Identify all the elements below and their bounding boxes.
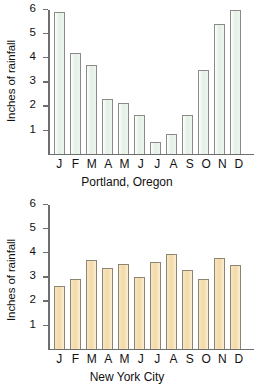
y-tick-5: 5	[43, 228, 48, 229]
bar-series-nyc	[51, 205, 244, 349]
x-tick-label-9: O	[198, 352, 214, 366]
bar-M-4	[118, 264, 129, 349]
y-tick-label-3: 3	[30, 75, 36, 87]
bar-D-11	[230, 265, 241, 349]
x-tick-label-0: J	[51, 157, 67, 171]
chart-panel-portland: Inches of rainfall 1 2 3 4 5 6	[0, 0, 254, 192]
y-tick-4: 4	[43, 252, 48, 253]
bar-F-1	[70, 53, 81, 153]
x-tick-label-7: A	[165, 352, 181, 366]
chart-caption-nyc: New York City	[0, 370, 254, 384]
y-tick-label-6: 6	[30, 198, 36, 210]
x-tick-label-1: F	[67, 352, 83, 366]
x-tick-label-4: M	[116, 157, 132, 171]
x-tick-label-7: A	[165, 157, 181, 171]
bar-series-portland	[51, 10, 244, 154]
y-tick-label-6: 6	[30, 3, 36, 15]
bar-N-10	[214, 258, 225, 349]
bar-F-1	[70, 279, 81, 348]
bar-slot	[99, 10, 115, 154]
y-axis-line	[48, 10, 50, 155]
bar-A-3	[102, 99, 113, 154]
y-tick-6: 6	[43, 204, 48, 205]
bar-slot	[180, 205, 196, 349]
bar-M-2	[86, 65, 97, 153]
y-tick-label-1: 1	[30, 124, 36, 136]
bar-S-8	[182, 270, 193, 349]
x-tick-label-1: F	[67, 157, 83, 171]
bar-J-6	[150, 142, 161, 154]
bar-J-5	[134, 115, 145, 153]
bar-J-0	[54, 286, 65, 348]
y-tick-label-2: 2	[30, 100, 36, 112]
bar-slot	[115, 10, 131, 154]
bar-slot	[115, 205, 131, 349]
bar-M-4	[118, 103, 129, 153]
x-tick-label-2: M	[84, 352, 100, 366]
x-tick-label-3: A	[100, 352, 116, 366]
y-tick-label-4: 4	[30, 51, 36, 63]
bar-slot	[67, 205, 83, 349]
x-tick-label-6: J	[149, 157, 165, 171]
y-tick-label-5: 5	[30, 222, 36, 234]
y-tick-2: 2	[43, 105, 48, 106]
x-tick-label-0: J	[51, 352, 67, 366]
bar-slot	[180, 10, 196, 154]
bar-slot	[228, 205, 244, 349]
x-tick-label-8: S	[182, 352, 198, 366]
y-tick-label-5: 5	[30, 27, 36, 39]
x-tick-label-8: S	[182, 157, 198, 171]
bar-slot	[164, 10, 180, 154]
y-tick-2: 2	[43, 300, 48, 301]
plot-area-portland: 1 2 3 4 5 6	[48, 10, 244, 155]
x-axis-month-labels-nyc: JFMAMJJASOND	[51, 352, 247, 366]
bar-M-2	[86, 260, 97, 348]
bar-slot	[196, 10, 212, 154]
bar-slot	[164, 205, 180, 349]
bar-O-9	[198, 279, 209, 348]
x-axis-line	[48, 154, 254, 156]
bar-slot	[83, 10, 99, 154]
bar-A-7	[166, 254, 177, 348]
y-tick-3: 3	[43, 276, 48, 277]
x-tick-label-4: M	[116, 352, 132, 366]
y-tick-4: 4	[43, 57, 48, 58]
y-tick-label-2: 2	[30, 295, 36, 307]
bar-J-0	[54, 12, 65, 153]
x-tick-label-11: D	[231, 157, 247, 171]
y-tick-3: 3	[43, 81, 48, 82]
y-axis-title-label: Inches of rainfall	[5, 239, 17, 321]
bar-A-7	[166, 134, 177, 153]
bar-slot	[83, 205, 99, 349]
bar-slot	[196, 205, 212, 349]
plot-area-nyc: 1 2 3 4 5 6	[48, 205, 244, 350]
x-tick-label-11: D	[231, 352, 247, 366]
bar-slot	[212, 10, 228, 154]
x-tick-label-10: N	[214, 157, 230, 171]
chart-panel-nyc: Inches of rainfall 1 2 3 4 5 6	[0, 191, 254, 383]
bar-J-6	[150, 262, 161, 348]
y-axis-line	[48, 205, 50, 350]
y-tick-1: 1	[43, 325, 48, 326]
bar-slot	[67, 10, 83, 154]
bar-slot	[51, 10, 67, 154]
bar-slot	[131, 205, 147, 349]
bar-D-11	[230, 10, 241, 154]
bar-slot	[99, 205, 115, 349]
y-tick-1: 1	[43, 130, 48, 131]
x-tick-label-5: J	[133, 352, 149, 366]
bar-J-5	[134, 277, 145, 349]
x-axis-month-labels-portland: JFMAMJJASOND	[51, 157, 247, 171]
bar-slot	[212, 205, 228, 349]
x-tick-label-5: J	[133, 157, 149, 171]
y-tick-label-1: 1	[30, 319, 36, 331]
x-axis-line	[48, 349, 254, 351]
bar-slot	[228, 10, 244, 154]
y-axis-title: Inches of rainfall	[0, 205, 22, 355]
bar-N-10	[214, 24, 225, 153]
bar-slot	[147, 205, 163, 349]
x-tick-label-10: N	[214, 352, 230, 366]
y-tick-label-3: 3	[30, 270, 36, 282]
bar-slot	[131, 10, 147, 154]
